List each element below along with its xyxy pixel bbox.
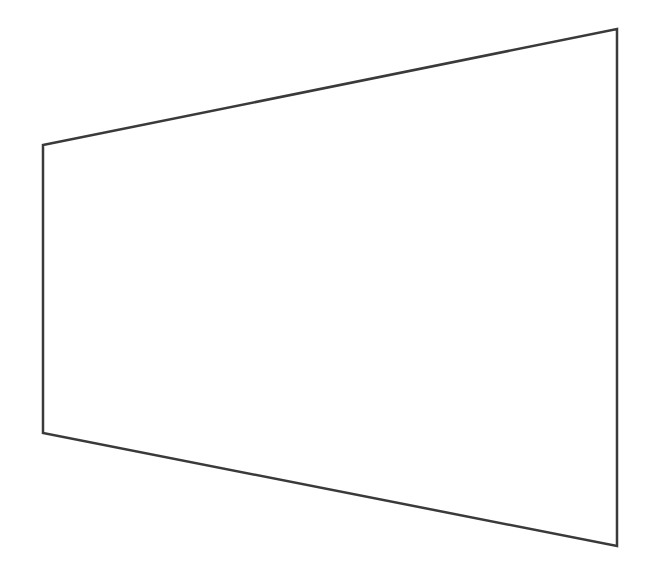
diagram-canvas [0,0,661,577]
trapezoid-shape [43,29,617,546]
